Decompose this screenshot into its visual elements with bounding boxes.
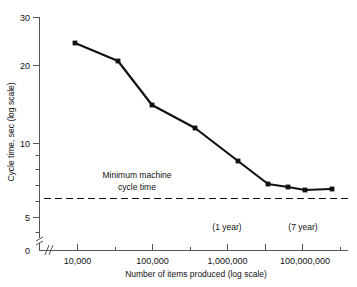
line-chart: 30 20 10 5 0 10,000 100,000 1,000,000 10… [0, 0, 357, 287]
data-point-marker [193, 126, 198, 131]
data-point-marker [303, 188, 308, 193]
x-axis-title: Number of items produced (log scale) [125, 269, 267, 279]
minimum-cycle-label-line2: cycle time [118, 182, 156, 192]
data-point-marker [330, 187, 335, 192]
y-axis-minor-ticks [36, 156, 40, 233]
x-tick-label-10000: 10,000 [64, 256, 92, 266]
data-point-marker [286, 185, 291, 190]
data-point-marker [116, 59, 121, 64]
series-line-cycle-time [75, 43, 332, 190]
x-tick-label-100000: 100,000 [136, 256, 169, 266]
one-year-annotation: (1 year) [212, 222, 241, 232]
x-tick-label-1000000: 1,000,000 [207, 256, 247, 266]
minimum-cycle-label-line1: Minimum machine [103, 170, 172, 180]
x-tick-label-100000000: 100,000,000 [280, 256, 330, 266]
seven-year-annotation: (7 year) [288, 222, 317, 232]
data-point-marker [150, 103, 155, 108]
y-tick-label-20: 20 [20, 61, 30, 71]
data-point-marker [236, 159, 241, 164]
y-tick-label-5: 5 [25, 213, 30, 223]
y-axis-major-ticks [33, 18, 40, 218]
y-tick-label-0: 0 [25, 246, 30, 256]
y-tick-label-30: 30 [20, 13, 30, 23]
y-axis-title: Cycle time, sec (log scale) [6, 82, 16, 181]
y-tick-label-10: 10 [20, 139, 30, 149]
chart-container: 30 20 10 5 0 10,000 100,000 1,000,000 10… [0, 0, 357, 287]
data-point-marker [73, 41, 78, 46]
data-point-marker [266, 182, 271, 187]
